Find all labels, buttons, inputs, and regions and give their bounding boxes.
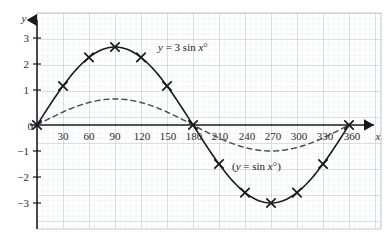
annotation-3sin: y = 3 sin x° [157, 41, 208, 53]
grid-area [37, 13, 381, 229]
y-label-3: 3 [24, 32, 30, 44]
x-label-270: 270 [265, 130, 282, 142]
y-axis-title: y [21, 12, 27, 24]
grid-major [37, 13, 381, 229]
y-label-minus1: −1 [17, 145, 29, 157]
x-axis-title: x [375, 130, 381, 142]
x-label-120: 120 [134, 130, 151, 142]
x-label-240: 240 [239, 130, 256, 142]
chart-container: 3 2 1 0 −1 −2 −3 30 60 90 120 150 180 21… [0, 0, 390, 240]
y-label-minus3: −3 [17, 197, 29, 209]
annotation-sin: (y = sin x°) [232, 160, 281, 173]
x-label-150: 150 [160, 130, 177, 142]
x-label-30: 30 [58, 130, 70, 142]
x-label-360: 360 [344, 130, 361, 142]
y-label-minus2: −2 [17, 171, 29, 183]
x-label-90: 90 [110, 130, 122, 142]
x-label-300: 300 [291, 130, 308, 142]
x-label-60: 60 [84, 130, 96, 142]
trig-graph-svg: 3 2 1 0 −1 −2 −3 30 60 90 120 150 180 21… [0, 0, 390, 240]
y-label-2: 2 [24, 58, 30, 70]
y-label-1: 1 [24, 84, 30, 96]
